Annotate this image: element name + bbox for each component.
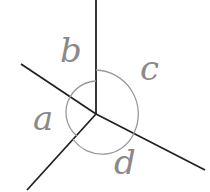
label-b: b xyxy=(60,30,82,70)
arc-b xyxy=(70,81,96,97)
ray-lower-right xyxy=(96,114,205,170)
arc-c xyxy=(96,70,138,133)
angle-diagram: b c a d xyxy=(0,0,210,192)
label-c: c xyxy=(140,48,159,88)
rays xyxy=(21,0,205,190)
label-a: a xyxy=(33,98,53,138)
label-d: d xyxy=(114,142,136,182)
arc-a xyxy=(66,97,77,136)
